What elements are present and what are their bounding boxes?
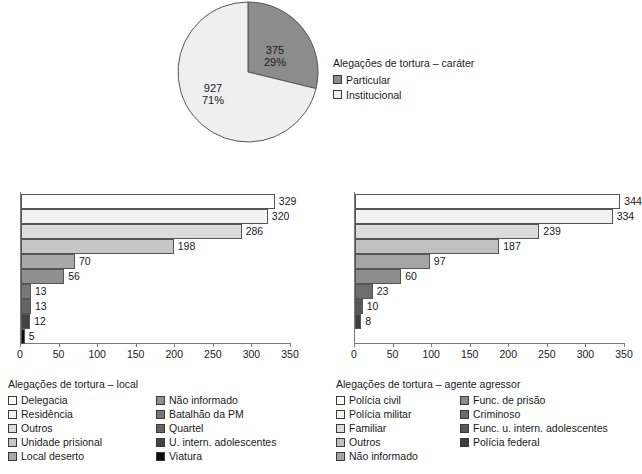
legend-entry-item[interactable]: Residência xyxy=(8,407,156,421)
legend-swatch-icon xyxy=(460,396,469,405)
legend-swatch-icon xyxy=(336,410,345,419)
legend-entry-item[interactable]: Criminoso xyxy=(460,407,608,421)
legend-entry-label: Local deserto xyxy=(21,450,84,462)
legend-entry-item[interactable]: Familiar xyxy=(336,421,460,435)
legend-entry-item[interactable]: Delegacia xyxy=(8,393,156,407)
legend-entry-item[interactable]: Batalhão da PM xyxy=(156,407,276,421)
bar-value-label: 329 xyxy=(279,195,297,208)
legend-swatch-icon xyxy=(336,424,345,433)
legend-entry-item[interactable]: Não informado xyxy=(156,393,276,407)
bar-chart-local-legend: Alegações de tortura – local DelegaciaRe… xyxy=(8,378,276,463)
bar-viatura[interactable] xyxy=(21,329,25,344)
legend-entry-item[interactable]: Outros xyxy=(336,435,460,449)
bar-local-deserto[interactable] xyxy=(21,254,75,269)
x-tick xyxy=(624,343,625,347)
bar-value-label: 23 xyxy=(377,285,389,298)
legend-entry-label: Residência xyxy=(21,408,73,420)
x-tick-label: 150 xyxy=(461,348,479,360)
x-tick-label: 350 xyxy=(281,348,299,360)
bar-n-o-informado[interactable] xyxy=(21,269,64,284)
bar-func-u-intern-adolescentes[interactable] xyxy=(355,299,363,314)
legend-title-agente: Alegações de tortura – agente agressor xyxy=(336,378,608,390)
legend-entry-item[interactable]: Não informado xyxy=(336,449,460,463)
legend-swatch-icon xyxy=(156,452,165,461)
bar-delegacia[interactable] xyxy=(21,194,275,209)
legend-entry-item[interactable]: U. intern. adolescentes xyxy=(156,435,276,449)
bar-n-o-informado[interactable] xyxy=(355,254,430,269)
bar-criminoso[interactable] xyxy=(355,284,373,299)
x-tick-label: 300 xyxy=(577,348,595,360)
legend-swatch-icon xyxy=(156,424,165,433)
legend-entry-item[interactable]: Unidade prisional xyxy=(8,435,156,449)
x-tick xyxy=(290,343,291,347)
bar-value-label: 320 xyxy=(272,210,290,223)
legend-entry-item[interactable]: Viatura xyxy=(156,449,276,463)
legend-swatch-icon xyxy=(8,438,17,447)
x-tick-label: 0 xyxy=(17,348,23,360)
legend-column-agente-1: Polícia civilPolícia militarFamiliarOutr… xyxy=(336,393,460,463)
pie-legend-label: Particular xyxy=(346,74,390,86)
legend-entry-item[interactable]: Func. de prisão xyxy=(460,393,608,407)
legend-entry-label: U. intern. adolescentes xyxy=(169,436,276,448)
pie-legend-item[interactable]: Particular xyxy=(333,72,401,87)
bar-value-label: 286 xyxy=(246,225,264,238)
legend-entry-label: Outros xyxy=(21,422,53,434)
legend-entry-label: Func. u. intern. adolescentes xyxy=(473,422,608,434)
bar-unidade-prisional[interactable] xyxy=(21,239,174,254)
pie-chart-graphic xyxy=(172,0,324,150)
bar-resid-ncia[interactable] xyxy=(21,209,268,224)
bar-outros[interactable] xyxy=(355,239,499,254)
legend-swatch-icon xyxy=(336,396,345,405)
x-tick-label: 250 xyxy=(204,348,222,360)
bar-func-de-pris-o[interactable] xyxy=(355,269,401,284)
x-tick-label: 300 xyxy=(243,348,261,360)
bar-u-intern-adolescentes[interactable] xyxy=(21,314,30,329)
legend-entry-item[interactable]: Quartel xyxy=(156,421,276,435)
x-tick xyxy=(174,343,175,347)
legend-swatch-icon xyxy=(8,452,17,461)
x-tick-label: 350 xyxy=(615,348,633,360)
legend-swatch-icon xyxy=(333,90,342,99)
legend-entry-label: Delegacia xyxy=(21,394,68,406)
bar-familiar[interactable] xyxy=(355,224,539,239)
legend-entry-item[interactable]: Polícia civil xyxy=(336,393,460,407)
bar-outros[interactable] xyxy=(21,224,242,239)
bar-value-label: 239 xyxy=(543,225,561,238)
bar-value-label: 10 xyxy=(367,300,379,313)
bar-value-label: 12 xyxy=(34,315,46,328)
legend-entry-item[interactable]: Polícia federal xyxy=(460,435,608,449)
legend-swatch-icon xyxy=(336,438,345,447)
bar-chart-local: 32932028619870561313125 0501001502002503… xyxy=(2,186,318,346)
legend-entry-item[interactable]: Func. u. intern. adolescentes xyxy=(460,421,608,435)
x-tick xyxy=(470,343,471,347)
bar-batalh-o-da-pm[interactable] xyxy=(21,284,31,299)
x-tick xyxy=(20,343,21,347)
legend-swatch-icon xyxy=(8,396,17,405)
legend-entry-item[interactable]: Polícia militar xyxy=(336,407,460,421)
bar-value-label: 70 xyxy=(79,255,91,268)
bar-pol-cia-militar[interactable] xyxy=(355,209,613,224)
pie-slice-value-institucional: 927 xyxy=(190,82,236,94)
bar-quartel[interactable] xyxy=(21,299,31,314)
legend-entry-item[interactable]: Outros xyxy=(8,421,156,435)
pie-legend-item[interactable]: Institucional xyxy=(333,87,401,102)
legend-title-local: Alegações de tortura – local xyxy=(8,378,276,390)
bar-pol-cia-federal[interactable] xyxy=(355,314,361,329)
pie-legend-column: ParticularInstitucional xyxy=(333,72,401,102)
bar-value-label: 8 xyxy=(365,315,371,328)
bar-value-label: 97 xyxy=(434,255,446,268)
legend-swatch-icon xyxy=(156,438,165,447)
legend-swatch-icon xyxy=(156,396,165,405)
legend-entry-label: Polícia militar xyxy=(349,408,411,420)
legend-entry-label: Criminoso xyxy=(473,408,520,420)
x-tick xyxy=(136,343,137,347)
legend-entry-item[interactable]: Local deserto xyxy=(8,449,156,463)
legend-entry-label: Batalhão da PM xyxy=(169,408,244,420)
bar-pol-cia-civil[interactable] xyxy=(355,194,620,209)
legend-entry-label: Quartel xyxy=(169,422,203,434)
bar-value-label: 13 xyxy=(35,300,47,313)
legend-swatch-icon xyxy=(8,424,17,433)
legend-entry-label: Não informado xyxy=(169,394,238,406)
legend-swatch-icon xyxy=(460,424,469,433)
legend-entry-label: Polícia civil xyxy=(349,394,401,406)
